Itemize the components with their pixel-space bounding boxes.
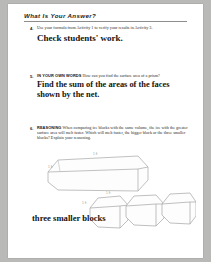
item-answer-6: three smaller blocks <box>32 213 106 223</box>
item-answer-4: Check students' work. <box>37 33 195 43</box>
item-number-4: 4. <box>30 26 33 31</box>
big-ice-block <box>48 156 148 191</box>
worksheet-page: What Is Your Answer? 4. Use your formula… <box>8 4 203 258</box>
item-tagline-5: IN YOUR OWN WORDS <box>37 73 81 78</box>
page-title: What Is Your Answer? <box>24 12 96 19</box>
small-block-label-top: 1 ft <box>106 191 111 195</box>
small-ice-block-2 <box>126 195 164 226</box>
exercise-item-5: 5. IN YOUR OWN WORDS How can you find th… <box>30 74 195 99</box>
item-prompt-4: Use your formula from Activity 1 to veri… <box>37 26 195 31</box>
big-block-label-left: 1 ft <box>48 165 53 169</box>
big-block-label-top: 1 ft <box>93 152 98 156</box>
item-answer-5-line2: shown by the net. <box>37 90 195 99</box>
item-number-5: 5. <box>30 74 33 79</box>
item-prompt-text-5: How can you find the surface area of a p… <box>82 73 159 78</box>
item-prompt-6: REASONING When comparing ice blocks with… <box>37 126 197 140</box>
item-prompt-5: IN YOUR OWN WORDS How can you find the s… <box>37 74 195 79</box>
item-answer-5-line1: Find the sum of the areas of the faces <box>37 80 195 89</box>
exercise-item-4: 4. Use your formula from Activity 1 to v… <box>30 26 195 43</box>
item-answer-5: Find the sum of the areas of the faces s… <box>37 80 195 99</box>
exercise-item-6: 6. REASONING When comparing ice blocks w… <box>30 126 198 140</box>
small-ice-block-3 <box>162 193 196 224</box>
item-number-6: 6. <box>30 126 33 131</box>
small-ice-block-1 <box>90 196 128 228</box>
small-block-label-left: 1 ft <box>82 201 87 205</box>
heading-divider <box>24 21 187 22</box>
worksheet-page-content: What Is Your Answer? 4. Use your formula… <box>8 4 203 258</box>
